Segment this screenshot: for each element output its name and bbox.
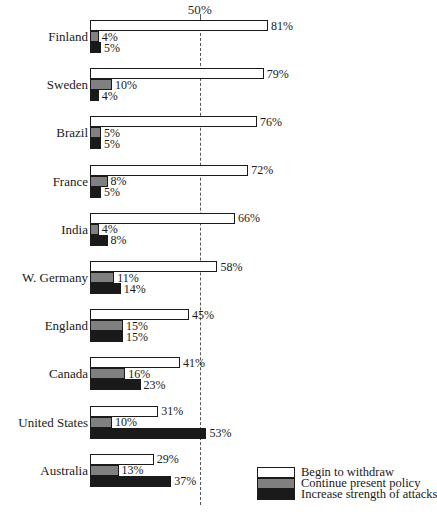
bar-row: 76% <box>90 116 418 127</box>
bar-group: United States31%10%53% <box>0 406 418 439</box>
bar-value-label: 23% <box>141 377 166 392</box>
legend-swatch <box>257 489 295 500</box>
bar-segment <box>90 320 123 331</box>
bar-row: 72% <box>90 165 418 176</box>
category-label: Brazil <box>0 127 92 138</box>
bar-row: 16% <box>90 368 418 379</box>
bar-row: 31% <box>90 406 418 417</box>
category-label: Sweden <box>0 79 92 90</box>
bar-row: 5% <box>90 42 418 53</box>
bar-group: India66%4%8% <box>0 213 418 246</box>
bar-segment <box>90 417 112 428</box>
bar-segment <box>90 476 171 487</box>
bar-row: 4% <box>90 31 418 42</box>
category-label: Finland <box>0 31 92 42</box>
legend-swatch <box>257 467 295 478</box>
bar-row: 58% <box>90 261 418 272</box>
bar-segment <box>90 428 206 439</box>
category-label: England <box>0 320 92 331</box>
bar-group: England45%15%15% <box>0 309 418 342</box>
bar-value-label: 8% <box>108 233 127 248</box>
bar-row: 23% <box>90 379 418 390</box>
bar-group: Finland81%4%5% <box>0 20 418 53</box>
bar-segment <box>90 272 114 283</box>
bar-row: 66% <box>90 213 418 224</box>
bar-segment <box>90 42 101 53</box>
bar-value-label: 5% <box>101 40 120 55</box>
bar-row: 53% <box>90 428 418 439</box>
bar-segment <box>90 127 101 138</box>
bar-segment <box>90 224 99 235</box>
category-label: Canada <box>0 368 92 379</box>
category-label: W. Germany <box>0 272 92 283</box>
bar-segment <box>90 90 99 101</box>
bar-segment <box>90 379 141 390</box>
bar-segment <box>90 235 108 246</box>
bar-row: 4% <box>90 224 418 235</box>
category-label: France <box>0 176 92 187</box>
bar-row: 79% <box>90 68 418 79</box>
bar-segment <box>90 31 99 42</box>
bar-row: 5% <box>90 138 418 149</box>
bar-group: Brazil76%5%5% <box>0 116 418 149</box>
bar-row: 15% <box>90 331 418 342</box>
bar-segment <box>90 368 125 379</box>
bar-segment <box>90 283 121 294</box>
bar-value-label: 37% <box>171 474 196 489</box>
bar-group: W. Germany58%11%14% <box>0 261 418 294</box>
bar-row: 10% <box>90 417 418 428</box>
bar-row: 81% <box>90 20 418 31</box>
bar-row: 8% <box>90 235 418 246</box>
bar-group: France72%8%5% <box>0 165 418 198</box>
bar-group: Canada41%16%23% <box>0 357 418 390</box>
legend-swatch <box>257 478 295 489</box>
category-label: Australia <box>0 465 92 476</box>
bar-row: 8% <box>90 176 418 187</box>
bar-segment <box>90 331 123 342</box>
bar-value-label: 15% <box>123 329 148 344</box>
legend-label: Increase strength of attacks <box>301 487 437 502</box>
category-label: India <box>0 224 92 235</box>
bar-row: 10% <box>90 79 418 90</box>
bar-segment <box>90 138 101 149</box>
bar-segment <box>90 187 101 198</box>
category-label: United States <box>0 417 92 428</box>
bar-segment <box>90 465 119 476</box>
bar-row: 5% <box>90 187 418 198</box>
bar-row: 5% <box>90 127 418 138</box>
bar-value-label: 53% <box>206 426 231 441</box>
bar-value-label: 5% <box>101 136 120 151</box>
bar-value-label: 14% <box>121 281 146 296</box>
bar-group: Sweden79%10%4% <box>0 68 418 101</box>
bar-row: 4% <box>90 90 418 101</box>
bar-value-label: 4% <box>99 88 118 103</box>
bar-segment <box>90 261 217 272</box>
bar-value-label: 5% <box>101 185 120 200</box>
bar-row: 14% <box>90 283 418 294</box>
